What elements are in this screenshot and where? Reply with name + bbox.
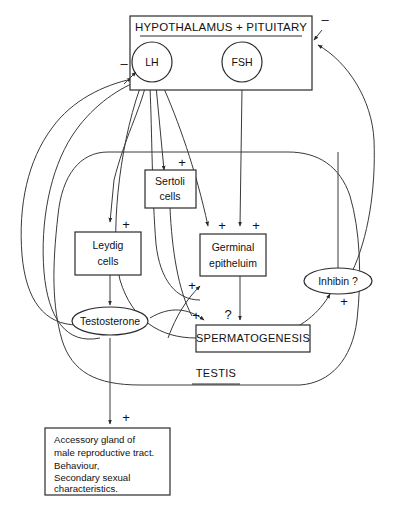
sertoli-label-line2: cells [159, 190, 180, 202]
hypothalamus-pituitary-label: HYPOTHALAMUS + PITUITARY [135, 21, 307, 33]
effects-line-2: male reproductive tract. [54, 447, 154, 458]
lh-label: LH [145, 56, 158, 68]
sertoli-label-line1: Sertoli [155, 175, 185, 187]
sign-spermatogenesis-plus: + [192, 308, 200, 323]
effects-line-1: Accessory gland of [54, 434, 135, 445]
spermatogenesis-label: SPERMATOGENESIS [196, 332, 310, 344]
testis-label: TESTIS [196, 367, 236, 379]
sign-germinal-in-plus: + [188, 278, 196, 293]
inhibin-label: Inhibin ? [318, 275, 358, 287]
effects-line-3: Behaviour, [54, 460, 99, 471]
edge-testosterone-to-lh-outer [21, 79, 132, 325]
leydig-label-line2: cells [97, 255, 118, 267]
germinal-label-line1: Germinal [212, 241, 255, 253]
sign-pituitary-negative: – [321, 12, 329, 27]
sign-leydig-plus: + [122, 217, 130, 232]
edge-lh-to-leydig [110, 84, 146, 222]
sign-sertoli-plus: + [178, 155, 186, 170]
endocrine-feedback-diagram: HYPOTHALAMUS + PITUITARY LH FSH – – Sert… [0, 0, 414, 513]
effects-line-5: characteristics. [54, 483, 118, 494]
edge-negative-into-pituitary [314, 30, 322, 40]
sign-effects-plus: + [122, 410, 130, 425]
sign-germinal-plus-right: + [252, 218, 260, 233]
effects-line-4: Secondary sexual [54, 472, 130, 483]
edge-fsh-to-germinal [240, 88, 242, 226]
edge-inhibin-to-pituitary [318, 45, 374, 272]
edge-testosterone-to-lh-inner [43, 82, 136, 339]
edge-spermatogenesis-to-lh [116, 88, 196, 338]
diagram-canvas: HYPOTHALAMUS + PITUITARY LH FSH – – Sert… [0, 0, 414, 513]
sign-germinal-plus-left: + [218, 218, 226, 233]
germinal-label-line2: epitheluim [209, 257, 257, 269]
testosterone-label: Testosterone [80, 315, 140, 327]
fsh-label: FSH [232, 56, 253, 68]
sign-spermatogenesis-question: ? [224, 307, 231, 322]
leydig-label-line1: Leydig [93, 239, 124, 251]
sign-inhibin-plus: + [340, 294, 348, 309]
edge-lh-to-sertoli [156, 86, 164, 170]
sign-lh-negative: – [120, 56, 128, 71]
